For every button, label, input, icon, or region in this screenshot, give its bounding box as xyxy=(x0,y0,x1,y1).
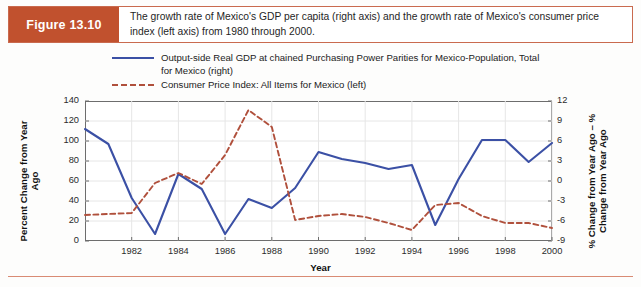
chart-plot-area: Percent Change from Year Ago % Change fr… xyxy=(0,0,641,287)
x-tick-1998: 1998 xyxy=(484,246,526,256)
y-tick-right-9: 9 xyxy=(557,115,581,125)
x-tick-1988: 1988 xyxy=(251,246,293,256)
y-tick-left-60: 60 xyxy=(49,175,79,185)
y-tick-left-0: 0 xyxy=(49,235,79,245)
y-tick-left-100: 100 xyxy=(49,135,79,145)
x-tick-1982: 1982 xyxy=(111,246,153,256)
x-axis-title: Year xyxy=(0,262,641,273)
y-tick-right-3: 3 xyxy=(557,155,581,165)
y-tick-left-40: 40 xyxy=(49,195,79,205)
y-tick-right--6: -6 xyxy=(557,215,581,225)
x-tick-1996: 1996 xyxy=(438,246,480,256)
y-tick-right-6: 6 xyxy=(557,135,581,145)
x-tick-1994: 1994 xyxy=(391,246,433,256)
x-tick-2000: 2000 xyxy=(531,246,573,256)
x-tick-1990: 1990 xyxy=(298,246,340,256)
x-tick-1984: 1984 xyxy=(157,246,199,256)
figure-bottom-rule xyxy=(8,276,633,277)
y-tick-left-140: 140 xyxy=(49,95,79,105)
y-axis-left-title: Percent Change from Year Ago xyxy=(18,111,40,251)
y-tick-right-0: 0 xyxy=(557,175,581,185)
y-tick-right-12: 12 xyxy=(557,95,581,105)
y-tick-right--3: -3 xyxy=(557,195,581,205)
chart-canvas xyxy=(0,0,641,287)
y-tick-left-20: 20 xyxy=(49,215,79,225)
y-tick-left-120: 120 xyxy=(49,115,79,125)
x-tick-1986: 1986 xyxy=(204,246,246,256)
y-tick-left-80: 80 xyxy=(49,155,79,165)
x-tick-1992: 1992 xyxy=(344,246,386,256)
y-tick-right--9: -9 xyxy=(557,235,581,245)
y-axis-right-title: % Change from Year Ago – % Change from Y… xyxy=(586,111,608,251)
figure-card: Figure 13.10 The growth rate of Mexico's… xyxy=(0,0,641,287)
